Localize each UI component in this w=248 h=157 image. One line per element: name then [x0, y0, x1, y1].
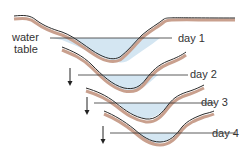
day-4-label: day 4: [212, 127, 239, 139]
day-2-label: day 2: [190, 68, 217, 80]
diagram-canvas: water table day 1 day 2 day 3 day 4: [0, 0, 248, 157]
down-arrow-icon: [85, 97, 90, 115]
stage-day-3: [86, 85, 215, 122]
day-3-label: day 3: [201, 96, 228, 108]
day-1-label: day 1: [178, 32, 205, 44]
down-arrow-icon: [101, 126, 106, 144]
water-table-label-line1: water: [11, 31, 39, 43]
water-table-label-line2: table: [14, 43, 38, 55]
water-body-day-1: [52, 38, 160, 62]
water-table-diagram: water table day 1 day 2 day 3 day 4: [0, 0, 248, 157]
down-arrow-icon: [68, 68, 73, 86]
